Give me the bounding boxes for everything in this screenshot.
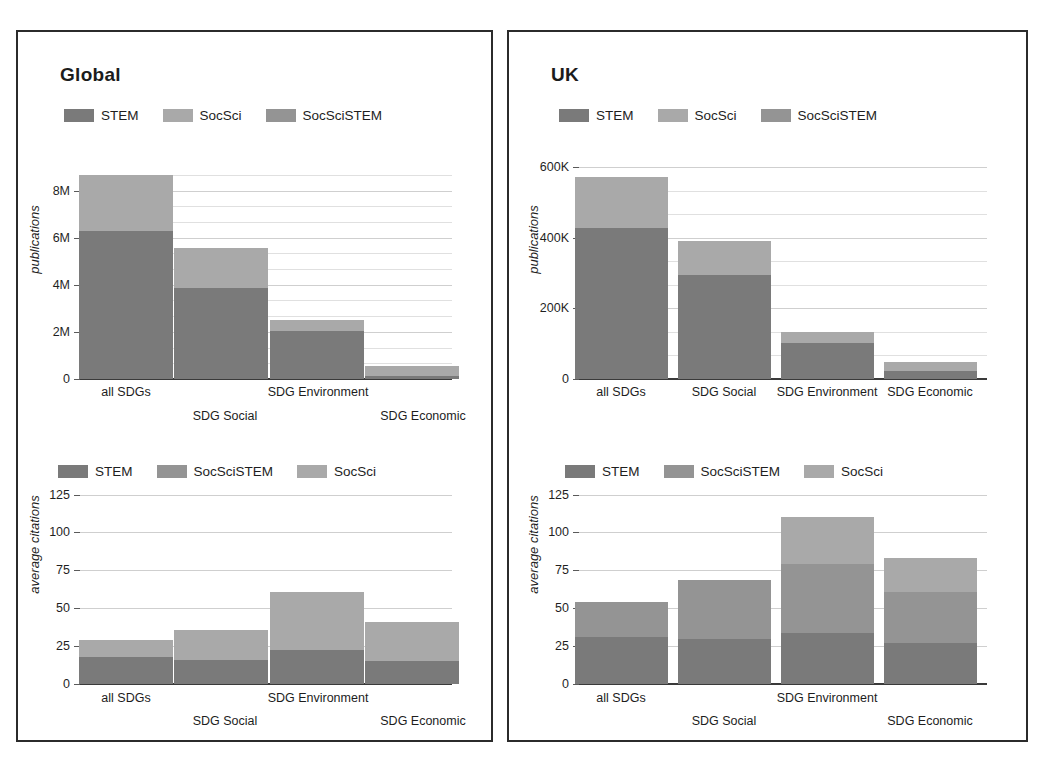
- y-tick-mark: [74, 532, 80, 533]
- chart-global-citations: STEMSocSciSTEMSocSci0255075100125average…: [18, 32, 495, 744]
- legend-swatch-icon: [804, 465, 834, 478]
- bar-segment-socsci: [79, 640, 173, 657]
- gridline: [80, 608, 452, 609]
- legend-swatch-icon: [565, 465, 595, 478]
- x-tick-label: SDG Social: [193, 714, 258, 728]
- bar-segment-stem: [575, 637, 668, 684]
- y-tick-label: 75: [56, 563, 70, 577]
- legend-item-socsci[interactable]: SocSci: [804, 464, 883, 479]
- legend-swatch-icon: [157, 465, 187, 478]
- legend-swatch-icon: [297, 465, 327, 478]
- legend-item-socsci[interactable]: SocSci: [297, 464, 376, 479]
- bar-segment-stem: [781, 633, 874, 685]
- y-tick-label: 100: [49, 525, 70, 539]
- bar-segment-socsci: [781, 517, 874, 564]
- y-tick-mark: [573, 495, 579, 496]
- legend-label: SocSciSTEM: [701, 464, 781, 479]
- y-axis-label: average citations: [526, 475, 541, 615]
- panel-uk: UK STEMSocSciSocSciSTEM0200K400K600Kpubl…: [507, 30, 1028, 742]
- bar-sdg-economic[interactable]: [884, 558, 977, 684]
- y-tick-mark: [74, 570, 80, 571]
- y-tick-mark: [573, 532, 579, 533]
- y-tick-label: 50: [56, 601, 70, 615]
- bar-segment-socscistem: [575, 602, 668, 637]
- bar-segment-socscistem: [678, 580, 771, 639]
- bar-segment-socscistem: [781, 564, 874, 632]
- x-tick-label: all SDGs: [101, 691, 150, 705]
- y-axis-label: average citations: [27, 475, 42, 615]
- bar-segment-stem: [365, 661, 459, 684]
- legend-item-stem[interactable]: STEM: [58, 464, 133, 479]
- y-tick-label: 0: [562, 677, 569, 691]
- y-tick-label: 0: [63, 677, 70, 691]
- x-tick-label: SDG Environment: [777, 691, 878, 705]
- legend-label: SocSci: [334, 464, 376, 479]
- plot-area: [80, 484, 452, 684]
- bar-segment-stem: [79, 657, 173, 684]
- bar-segment-socscistem: [884, 592, 977, 644]
- figure-root: Global STEMSocSciSocSciSTEM02M4M6M8Mpubl…: [0, 0, 1042, 765]
- y-tick-label: 125: [548, 488, 569, 502]
- legend-label: SocSciSTEM: [194, 464, 274, 479]
- legend: STEMSocSciSTEMSocSci: [565, 464, 907, 479]
- bar-segment-stem: [678, 639, 771, 684]
- y-tick-label: 25: [555, 639, 569, 653]
- bar-sdg-social[interactable]: [174, 630, 268, 684]
- y-tick-label: 50: [555, 601, 569, 615]
- bar-segment-socsci: [365, 622, 459, 661]
- legend: STEMSocSciSTEMSocSci: [58, 464, 400, 479]
- x-tick-label: all SDGs: [596, 691, 645, 705]
- gridline: [579, 495, 987, 496]
- bar-segment-stem: [270, 650, 364, 684]
- bar-segment-stem: [884, 643, 977, 684]
- plot-area: [579, 484, 987, 684]
- x-tick-label: SDG Economic: [380, 714, 465, 728]
- gridline: [80, 495, 452, 496]
- y-tick-label: 125: [49, 488, 70, 502]
- x-tick-label: SDG Social: [692, 714, 757, 728]
- bar-all-sdgs[interactable]: [575, 602, 668, 684]
- bar-sdg-economic[interactable]: [365, 622, 459, 684]
- bar-all-sdgs[interactable]: [79, 640, 173, 684]
- y-tick-label: 100: [548, 525, 569, 539]
- legend-item-socscistem[interactable]: SocSciSTEM: [157, 464, 274, 479]
- panel-global: Global STEMSocSciSocSciSTEM02M4M6M8Mpubl…: [16, 30, 493, 742]
- x-tick-label: SDG Economic: [887, 714, 972, 728]
- y-tick-mark: [74, 608, 80, 609]
- legend-swatch-icon: [664, 465, 694, 478]
- bar-sdg-social[interactable]: [678, 580, 771, 684]
- y-tick-label: 75: [555, 563, 569, 577]
- bar-segment-stem: [174, 660, 268, 684]
- bar-segment-socsci: [270, 592, 364, 650]
- legend-item-stem[interactable]: STEM: [565, 464, 640, 479]
- x-tick-label: SDG Environment: [268, 691, 369, 705]
- y-tick-mark: [573, 570, 579, 571]
- legend-label: SocSci: [841, 464, 883, 479]
- gridline: [80, 570, 452, 571]
- bar-sdg-environment[interactable]: [270, 592, 364, 684]
- legend-label: STEM: [95, 464, 133, 479]
- legend-label: STEM: [602, 464, 640, 479]
- legend-swatch-icon: [58, 465, 88, 478]
- gridline: [80, 532, 452, 533]
- bar-sdg-environment[interactable]: [781, 517, 874, 684]
- bar-segment-socsci: [884, 558, 977, 591]
- bar-segment-socsci: [174, 630, 268, 660]
- legend-item-socscistem[interactable]: SocSciSTEM: [664, 464, 781, 479]
- y-tick-label: 25: [56, 639, 70, 653]
- y-tick-mark: [74, 495, 80, 496]
- chart-uk-citations: STEMSocSciSTEMSocSci0255075100125average…: [509, 32, 1030, 744]
